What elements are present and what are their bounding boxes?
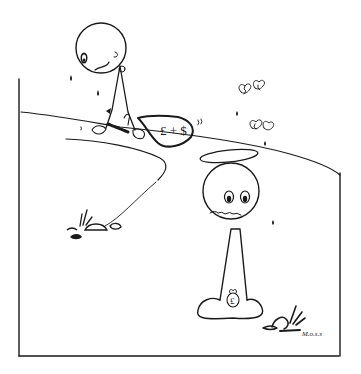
cartoon-canvas: £ + $ £ <box>0 0 361 374</box>
tear-drop-icon <box>264 141 266 146</box>
artist-signature: M.o.s.s <box>301 330 322 338</box>
picture-frame <box>19 79 340 356</box>
halo-icon <box>200 147 259 165</box>
broken-heart-icon <box>253 80 264 90</box>
tear-drop-icon <box>70 75 72 81</box>
money-bag: £ + $ <box>138 116 202 147</box>
svg-text:£: £ <box>230 296 235 306</box>
broken-heart-icon <box>239 84 251 94</box>
tear-drop-icon <box>272 220 274 225</box>
grass-and-rocks-left <box>67 210 121 239</box>
broken-heart-icon <box>263 121 274 130</box>
grass-and-rocks-right: M.o.s.s <box>263 306 322 338</box>
tear-drop-icon <box>236 111 238 116</box>
broken-heart-icon <box>250 120 262 129</box>
happy-figure: £ <box>198 147 274 319</box>
tear-drop-icon <box>97 90 99 96</box>
bag-label: £ + $ <box>160 123 187 138</box>
broken-hearts <box>236 80 274 146</box>
crying-figure <box>70 23 145 139</box>
